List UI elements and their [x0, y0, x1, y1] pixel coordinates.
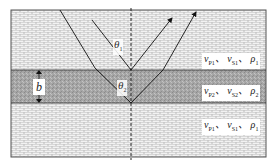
middle-layer-params: vP2、 vS2、 ρ2 — [202, 85, 260, 101]
upper-layer-params: vP1、 vS1、 ρ1 — [202, 53, 260, 69]
thickness-label: b — [33, 79, 45, 95]
theta1-label: θ1 — [113, 39, 123, 55]
lower-layer-params: vP1、 vS1、 ρ1 — [202, 119, 260, 135]
theta2-label: θ2 — [117, 80, 127, 96]
